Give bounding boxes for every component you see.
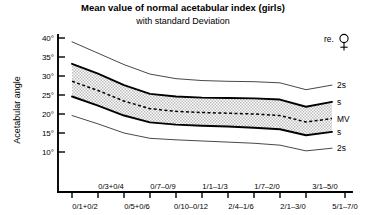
standard-deviation-band [72, 64, 332, 135]
y-axis-label: Acetabular angle [12, 76, 22, 144]
x-tick-label-upper: 1/7–2/0 [254, 182, 279, 191]
x-tick-label-lower: 0/5+0/6 [124, 202, 150, 211]
chart-subtitle: with standard Deviation [135, 16, 230, 26]
x-tick-label-lower: 0/1+0/2 [72, 202, 98, 211]
chart-title: Mean value of normal acetabular index (g… [81, 2, 285, 13]
chart-container: Mean value of normal acetabular index (g… [0, 0, 367, 215]
y-tick-label: 30° [42, 72, 54, 81]
x-tick-label-upper: 0/3+0/4 [98, 182, 124, 191]
y-tick-label: 20° [42, 110, 54, 119]
series-label-upper-1s: s [337, 97, 341, 107]
series-label-mean: MV [337, 114, 350, 124]
y-tick-label: 10° [42, 148, 54, 157]
series-label-lower-2s: 2s [337, 143, 346, 153]
y-tick-label: 40° [42, 34, 54, 43]
y-tick-label: 25° [42, 91, 54, 100]
y-tick-label: 15° [42, 129, 54, 138]
x-tick-label-lower: 2/4–1/6 [228, 202, 253, 211]
sex-marker: re. [324, 34, 348, 51]
series-label-lower-1s: s [337, 127, 341, 137]
series-labels: 2s s MV s 2s [337, 80, 350, 153]
x-axis-labels-lower: 0/1+0/2 0/5+0/6 0/10–0/12 2/4–1/6 2/1–3/… [72, 202, 357, 211]
plot-area [72, 42, 332, 151]
x-tick-label-upper: 3/1–5/0 [312, 182, 337, 191]
x-tick-label-upper: 1/1–1/3 [202, 182, 227, 191]
y-axis-ticks [58, 38, 65, 152]
y-axis-tick-labels: 40° 35° 30° 25° 20° 15° 10° [42, 34, 54, 157]
sex-marker-text: re. [324, 34, 334, 44]
x-tick-label-lower: 2/1–3/0 [280, 202, 305, 211]
series-label-upper-2s: 2s [337, 80, 346, 90]
x-axis-labels-upper: 0/3+0/4 0/7–0/9 1/1–1/3 1/7–2/0 3/1–5/0 [98, 182, 337, 191]
x-tick-label-upper: 0/7–0/9 [150, 182, 175, 191]
y-tick-label: 35° [42, 53, 54, 62]
venus-icon [340, 34, 348, 50]
x-tick-label-lower: 5/1–7/0 [332, 202, 357, 211]
x-tick-label-lower: 0/10–0/12 [174, 202, 208, 211]
acetabular-index-chart: Mean value of normal acetabular index (g… [0, 0, 367, 215]
